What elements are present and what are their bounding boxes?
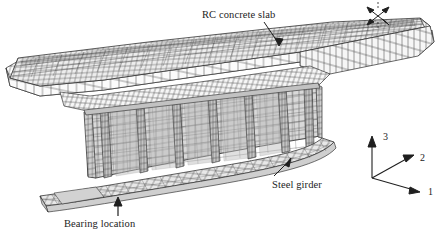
axis-label-2: 2 — [420, 152, 425, 163]
fe-model-figure — [0, 0, 445, 237]
label-steel-girder: Steel girder — [272, 179, 322, 190]
coordinate-triad — [368, 136, 420, 194]
axis-1-arrow — [372, 178, 420, 194]
axis-label-1: 1 — [428, 186, 433, 197]
label-bearing-location: Bearing location — [64, 218, 135, 229]
axis-2-arrow — [372, 155, 414, 178]
axis-3-arrow — [368, 136, 376, 178]
axis-label-3: 3 — [383, 131, 388, 142]
label-rc-concrete-slab: RC concrete slab — [202, 9, 275, 20]
